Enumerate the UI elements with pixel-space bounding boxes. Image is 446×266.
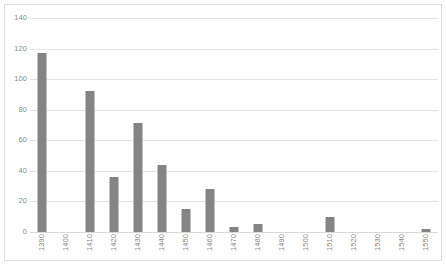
x-axis-tick-slot: 1550 <box>414 234 438 264</box>
bar-slot <box>198 18 222 232</box>
x-axis-tick-label: 1390 <box>38 234 46 251</box>
x-axis-tick-label: 1470 <box>230 234 238 251</box>
x-axis-tick-label: 1480 <box>254 234 262 251</box>
bar <box>38 53 47 232</box>
x-axis-tick-label: 1410 <box>86 234 94 251</box>
bar-slot <box>174 18 198 232</box>
bar-slot <box>366 18 390 232</box>
bar-slot <box>30 18 54 232</box>
x-axis-tick-slot: 1410 <box>78 234 102 264</box>
bar <box>182 209 191 232</box>
bar <box>254 224 263 232</box>
x-axis-tick-slot: 1420 <box>102 234 126 264</box>
y-axis-tick-label: 140 <box>1 14 27 22</box>
x-axis-tick-slot: 1460 <box>198 234 222 264</box>
x-axis-tick-slot: 1450 <box>174 234 198 264</box>
x-axis-tick-label: 1420 <box>110 234 118 251</box>
bar-chart: 020406080100120140 139014001410142014301… <box>0 0 446 266</box>
bar-slot <box>54 18 78 232</box>
x-axis-tick-label: 1520 <box>350 234 358 251</box>
plot-area <box>30 18 438 232</box>
bar-slot <box>78 18 102 232</box>
x-axis-tick-slot: 1540 <box>390 234 414 264</box>
bar-slot <box>414 18 438 232</box>
bar-slot <box>294 18 318 232</box>
bar <box>158 165 167 232</box>
x-axis-tick-slot: 1490 <box>270 234 294 264</box>
x-axis-tick-label: 1510 <box>326 234 334 251</box>
bar <box>422 229 431 232</box>
bar-slot <box>270 18 294 232</box>
y-axis-tick-label: 80 <box>1 106 27 114</box>
bar-slot <box>318 18 342 232</box>
x-axis-tick-label: 1550 <box>422 234 430 251</box>
x-axis-tick-label: 1490 <box>278 234 286 251</box>
axis-line-zero <box>30 232 438 233</box>
bar-series <box>30 18 438 232</box>
bar-slot <box>150 18 174 232</box>
x-axis-tick-label: 1430 <box>134 234 142 251</box>
bar-slot <box>222 18 246 232</box>
bar-slot <box>390 18 414 232</box>
bar-slot <box>246 18 270 232</box>
bar <box>110 177 119 232</box>
x-axis-tick-slot: 1530 <box>366 234 390 264</box>
x-axis-tick-slot: 1390 <box>30 234 54 264</box>
x-axis-tick-label: 1500 <box>302 234 310 251</box>
bar-slot <box>126 18 150 232</box>
y-axis-tick-label: 100 <box>1 75 27 83</box>
bar <box>230 227 239 232</box>
y-axis-tick-label: 120 <box>1 45 27 53</box>
x-axis: 1390140014101420143014401450146014701480… <box>30 234 438 264</box>
y-axis-tick-label: 60 <box>1 136 27 144</box>
x-axis-tick-slot: 1520 <box>342 234 366 264</box>
x-axis-tick-label: 1450 <box>182 234 190 251</box>
x-axis-tick-slot: 1470 <box>222 234 246 264</box>
x-axis-tick-label: 1530 <box>374 234 382 251</box>
x-axis-tick-label: 1400 <box>62 234 70 251</box>
bar-slot <box>342 18 366 232</box>
bar <box>134 123 143 232</box>
bar <box>86 91 95 232</box>
y-axis-tick-label: 40 <box>1 167 27 175</box>
y-axis-tick-label: 20 <box>1 197 27 205</box>
x-axis-tick-slot: 1440 <box>150 234 174 264</box>
x-axis-tick-slot: 1400 <box>54 234 78 264</box>
bar <box>206 189 215 232</box>
x-axis-tick-label: 1460 <box>206 234 214 251</box>
bar-slot <box>102 18 126 232</box>
y-axis: 020406080100120140 <box>0 18 27 232</box>
x-axis-tick-label: 1540 <box>398 234 406 251</box>
x-axis-tick-label: 1440 <box>158 234 166 251</box>
x-axis-tick-slot: 1510 <box>318 234 342 264</box>
x-axis-tick-slot: 1500 <box>294 234 318 264</box>
x-axis-tick-slot: 1480 <box>246 234 270 264</box>
bar <box>326 217 335 232</box>
x-axis-tick-slot: 1430 <box>126 234 150 264</box>
y-axis-tick-label: 0 <box>1 228 27 236</box>
